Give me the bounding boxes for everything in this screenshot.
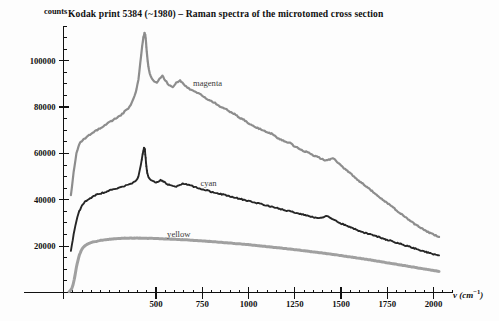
x-axis-title: ν (cm−1) bbox=[453, 289, 483, 300]
peak-marker bbox=[147, 60, 149, 62]
peak-marker bbox=[144, 154, 146, 156]
peak-marker bbox=[141, 45, 143, 47]
chart-canvas bbox=[0, 0, 499, 321]
peak-marker bbox=[144, 32, 146, 34]
peak-marker bbox=[146, 169, 148, 171]
peak-marker bbox=[144, 34, 146, 36]
peak-marker bbox=[146, 51, 148, 53]
y-tick-label: 40000 bbox=[0, 196, 56, 205]
x-tick-label: 500 bbox=[149, 300, 162, 309]
peak-marker bbox=[141, 159, 143, 161]
x-tick-label: 1000 bbox=[240, 300, 258, 309]
raman-spectra-figure: counts Kodak print 5384 (~1980) – Raman … bbox=[0, 0, 499, 321]
axis-lines bbox=[24, 26, 452, 296]
peak-marker bbox=[146, 46, 148, 48]
x-tick-label: 1500 bbox=[332, 300, 350, 309]
spectra-curves bbox=[69, 33, 439, 292]
x-tick-label: 2000 bbox=[425, 300, 443, 309]
peak-marker bbox=[146, 165, 148, 167]
chart-title: Kodak print 5384 (~1980) – Raman spectra… bbox=[68, 9, 383, 19]
peak-marker bbox=[144, 149, 146, 151]
x-tick-label: 1750 bbox=[378, 300, 396, 309]
spectrum-yellow bbox=[69, 238, 439, 292]
x-tick-label: 750 bbox=[196, 300, 209, 309]
peak-marker bbox=[145, 157, 147, 159]
curve-label-yellow: yellow bbox=[167, 230, 190, 239]
peak-marker bbox=[146, 55, 148, 57]
curve-label-magenta: magenta bbox=[193, 79, 222, 88]
peak-marker bbox=[145, 41, 147, 43]
y-tick-label: 100000 bbox=[0, 56, 56, 65]
peak-marker bbox=[147, 65, 149, 67]
y-tick-label: 60000 bbox=[0, 149, 56, 158]
y-tick-label: 20000 bbox=[0, 242, 56, 251]
curve-label-cyan: cyan bbox=[200, 179, 216, 188]
x-tick-label: 1250 bbox=[286, 300, 304, 309]
y-tick-label: 80000 bbox=[0, 103, 56, 112]
spectrum-magenta bbox=[71, 33, 439, 237]
peak-marker bbox=[142, 41, 144, 43]
y-axis-title: counts bbox=[44, 8, 67, 16]
axis-ticks bbox=[59, 26, 453, 299]
peak-marker bbox=[140, 54, 142, 56]
peak-marker bbox=[142, 153, 144, 155]
peak-marker bbox=[146, 172, 148, 174]
peak-marker bbox=[143, 36, 145, 38]
peak-marker bbox=[145, 37, 147, 39]
peak-marker bbox=[142, 150, 144, 152]
peak-marker bbox=[145, 162, 147, 164]
